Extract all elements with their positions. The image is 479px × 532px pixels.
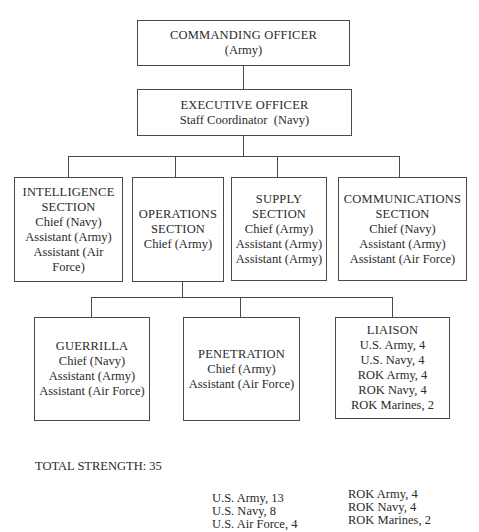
connector-sections-bar [68,156,400,157]
supply-section-box: SUPPLY SECTION Chief (Army) Assistant (A… [231,177,327,281]
connector-communications [399,156,400,177]
liaison-us-army: U.S. Army, 4 [360,338,426,353]
connector-xo-sections [243,135,244,156]
intelligence-assistant-2b: Force) [52,260,85,275]
liaison-rok-army: ROK Army, 4 [358,368,428,383]
operations-chief: Chief (Army) [144,237,212,252]
supply-assistant-1: Assistant (Army) [236,237,322,252]
intelligence-title-2: SECTION [41,200,95,215]
total-us-air-force: U.S. Air Force, 4 [212,518,297,531]
connector-co-xo [243,65,244,90]
connector-penetration [240,297,241,318]
connector-liaison [392,297,393,318]
liaison-rok-marines: ROK Marines, 2 [351,398,434,413]
commanding-officer-title: COMMANDING OFFICER [170,28,317,43]
connector-intelligence [68,156,69,177]
penetration-assistant: Assistant (Air Force) [189,377,295,392]
guerrilla-assistant-1: Assistant (Army) [49,369,135,384]
intelligence-title-1: INTELLIGENCE [23,185,115,200]
supply-assistant-2: Assistant (Army) [236,252,322,267]
totals-us-column: U.S. Army, 13 U.S. Navy, 8 U.S. Air Forc… [212,492,297,531]
totals-rok-column: ROK Army, 4 ROK Navy, 4 ROK Marines, 2 [348,488,431,527]
connector-supply [277,156,278,177]
communications-assistant-2: Assistant (Air Force) [350,252,456,267]
total-strength-label: TOTAL STRENGTH: 35 [35,460,162,473]
commanding-officer-box: COMMANDING OFFICER (Army) [137,20,350,66]
communications-chief: Chief (Navy) [369,222,435,237]
intelligence-section-box: INTELLIGENCE SECTION Chief (Navy) Assist… [14,177,123,282]
liaison-rok-navy: ROK Navy, 4 [358,383,426,398]
executive-officer-role: Staff Coordinator (Navy) [180,113,309,128]
liaison-box: LIAISON U.S. Army, 4 U.S. Navy, 4 ROK Ar… [335,317,450,419]
communications-title-2: SECTION [375,207,429,222]
connector-operations-units [182,281,183,297]
liaison-us-navy: U.S. Navy, 4 [360,353,424,368]
penetration-chief: Chief (Army) [207,362,275,377]
connector-operations [175,156,176,177]
operations-title-1: OPERATIONS [139,207,217,222]
operations-title-2: SECTION [151,222,205,237]
connector-units-bar [91,297,393,298]
communications-section-box: COMMUNICATIONS SECTION Chief (Navy) Assi… [338,177,467,281]
commanding-officer-branch: (Army) [225,43,263,58]
guerrilla-assistant-2: Assistant (Air Force) [39,384,145,399]
executive-officer-title: EXECUTIVE OFFICER [180,98,308,113]
communications-title-1: COMMUNICATIONS [344,192,461,207]
penetration-title: PENETRATION [198,347,285,362]
total-rok-marines: ROK Marines, 2 [348,514,431,527]
guerrilla-title: GUERRILLA [56,339,129,354]
penetration-box: PENETRATION Chief (Army) Assistant (Air … [183,317,300,421]
liaison-title: LIAISON [367,323,418,338]
executive-officer-box: EXECUTIVE OFFICER Staff Coordinator (Nav… [137,89,352,136]
guerrilla-chief: Chief (Navy) [59,354,125,369]
intelligence-chief: Chief (Navy) [35,215,101,230]
operations-section-box: OPERATIONS SECTION Chief (Army) [132,177,224,282]
intelligence-assistant-1: Assistant (Army) [25,230,111,245]
communications-assistant-1: Assistant (Army) [359,237,445,252]
guerrilla-box: GUERRILLA Chief (Navy) Assistant (Army) … [34,317,150,421]
supply-title-2: SECTION [252,207,306,222]
connector-guerrilla [91,297,92,318]
intelligence-assistant-2a: Assistant (Air [34,245,104,260]
supply-chief: Chief (Army) [245,222,313,237]
supply-title-1: SUPPLY [256,192,303,207]
